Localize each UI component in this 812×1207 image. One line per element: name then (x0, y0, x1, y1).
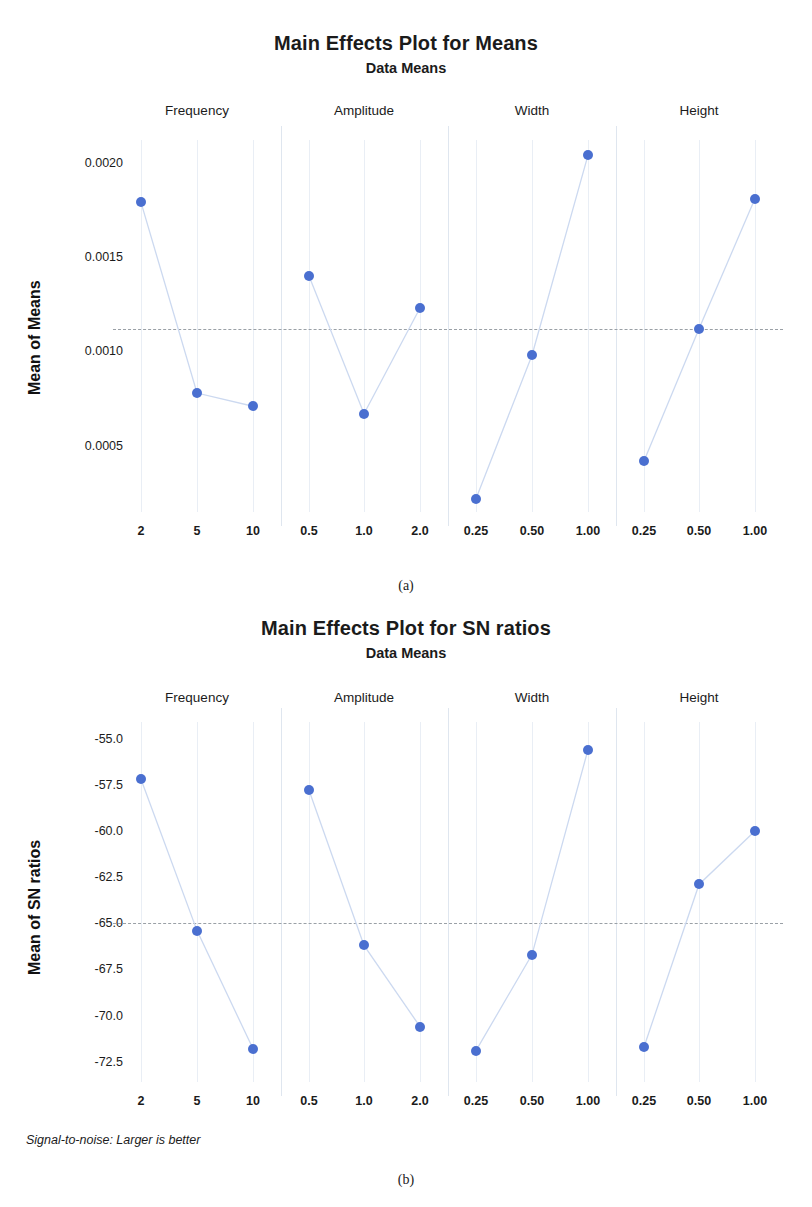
figure-b-caption: (b) (0, 1172, 812, 1188)
data-point (471, 1046, 481, 1056)
x-axis-tick-label: 0.50 (520, 1094, 544, 1108)
data-point (304, 785, 314, 795)
data-point (694, 879, 704, 889)
data-point (750, 826, 760, 836)
x-axis-tick-label: 5 (194, 1094, 201, 1108)
chart-b-plot-area: FrequencyAmplitudeWidthHeight-55.0-57.5-… (0, 0, 812, 1140)
x-axis-tick-label: 0.25 (464, 1094, 488, 1108)
x-axis-tick-label: 10 (246, 1094, 260, 1108)
x-axis-tick-label: 1.00 (743, 1094, 767, 1108)
data-point (527, 950, 537, 960)
series-lines (0, 0, 812, 1207)
data-point (583, 745, 593, 755)
data-point (248, 1044, 258, 1054)
data-point (415, 1022, 425, 1032)
x-axis-tick-label: 2.0 (411, 1094, 428, 1108)
x-axis-tick-label: 0.25 (632, 1094, 656, 1108)
x-axis-tick-label: 0.5 (300, 1094, 317, 1108)
x-axis-tick-label: 1.0 (355, 1094, 372, 1108)
data-point (639, 1042, 649, 1052)
data-point (136, 774, 146, 784)
data-point (359, 940, 369, 950)
x-axis-tick-label: 2 (138, 1094, 145, 1108)
chart-b-footnote: Signal-to-noise: Larger is better (26, 1133, 200, 1147)
x-axis-tick-label: 1.00 (576, 1094, 600, 1108)
data-point (192, 926, 202, 936)
x-axis-tick-label: 0.50 (687, 1094, 711, 1108)
